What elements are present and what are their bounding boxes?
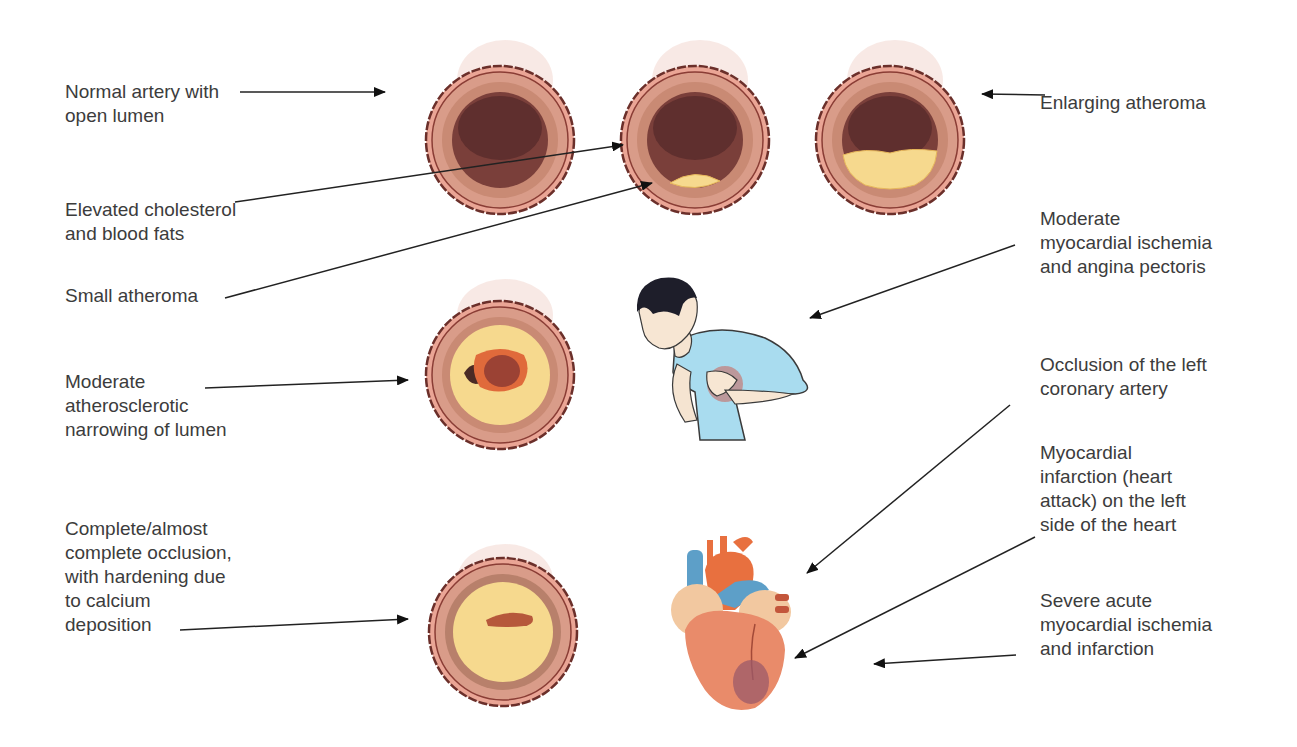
label-small-atheroma: Small atheroma [65,284,198,308]
label-myocardial-infarction: Myocardial infarction (heart attack) on … [1040,441,1186,537]
label-moderate-ischemia: Moderate myocardial ischemia and angina … [1040,207,1212,279]
label-complete-occlusion: Complete/almost complete occlusion, with… [65,517,232,637]
label-normal-artery: Normal artery with open lumen [65,80,219,128]
label-enlarging-atheroma: Enlarging atheroma [1040,91,1206,115]
label-occlusion-left-coronary: Occlusion of the left coronary artery [1040,353,1207,401]
label-elevated-cholesterol: Elevated cholesterol and blood fats [65,198,236,246]
label-severe-ischemia: Severe acute myocardial ischemia and inf… [1040,589,1212,661]
label-moderate-narrowing: Moderate atherosclerotic narrowing of lu… [65,370,227,442]
